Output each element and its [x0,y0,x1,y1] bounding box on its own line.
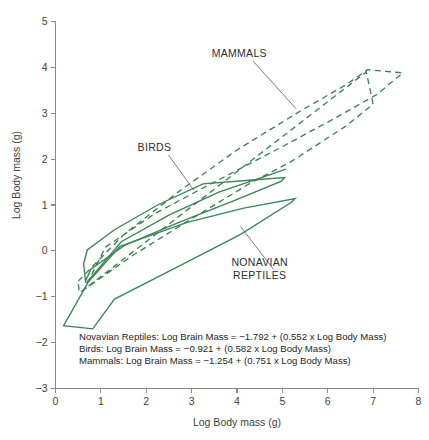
x-tick-label: 1 [98,395,104,407]
chart-figure: −3−2−1012345012345678 MAMMALSBIRDSNONAVI… [0,0,429,440]
chart-canvas: −3−2−1012345012345678 MAMMALSBIRDSNONAVI… [0,0,429,440]
annotation-label: REPTILES [233,269,286,281]
x-tick-label: 6 [325,395,331,407]
annotation-leader-line [168,155,193,190]
x-axis-title: Log Body mass (g) [193,416,281,428]
y-axis-title: Log Body mass (g) [10,131,22,219]
y-tick-label: 0 [42,244,48,256]
x-tick-label: 8 [416,395,422,407]
annotation-label: BIRDS [138,141,172,153]
x-tick-label: 0 [53,395,59,407]
annotation-label: MAMMALS [212,47,267,59]
y-tick-label: −2 [36,336,48,348]
x-tick-label: 7 [370,395,376,407]
x-tick-label: 4 [234,395,240,407]
annotation-label: NONAVIAN [231,256,287,268]
equation-line: Novavian Reptiles: Log Brain Mass = −1.7… [79,331,386,342]
data-series [64,70,403,329]
x-tick-label: 5 [279,395,285,407]
y-tick-label: 1 [42,199,48,211]
y-tick-label: 4 [42,61,48,73]
y-tick-label: 3 [42,107,48,119]
x-tick-label: 3 [189,395,195,407]
y-tick-label: −1 [36,290,48,302]
y-tick-label: 5 [42,15,48,27]
y-tick-label: 2 [42,153,48,165]
annotation-leader-line [253,61,296,108]
annotations: MAMMALSBIRDSNONAVIANREPTILES [138,47,296,280]
equation-line: Mammals: Log Brain Mass = −1.254 + (0.75… [79,355,351,366]
x-tick-label: 2 [143,395,149,407]
equation-line: Birds: Log Brain Mass = −0.921 + (0.582 … [79,343,331,354]
y-tick-label: −3 [36,382,48,394]
equation-block: Novavian Reptiles: Log Brain Mass = −1.7… [79,331,386,366]
